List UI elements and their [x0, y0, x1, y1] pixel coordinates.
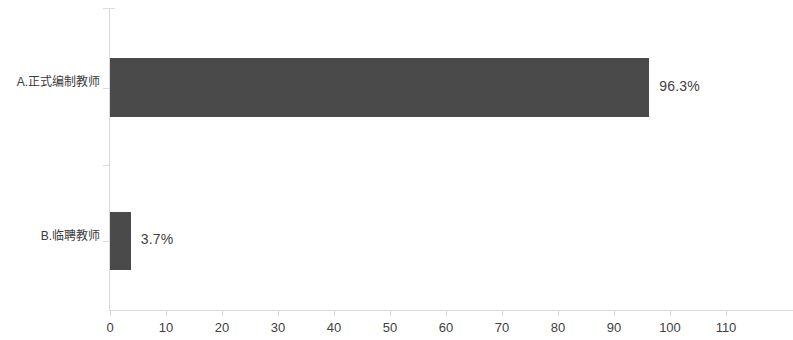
x-axis-tick	[166, 311, 167, 316]
x-axis-label: 20	[202, 320, 242, 335]
x-axis-label: 50	[370, 320, 410, 335]
x-axis-label: 30	[258, 320, 298, 335]
x-axis-label: 60	[426, 320, 466, 335]
x-axis-label: 40	[314, 320, 354, 335]
x-axis-label: 70	[482, 320, 522, 335]
bar-value-label: 96.3%	[659, 78, 700, 94]
bar-chart: A.正式编制教师 B.临聘教师 96.3% 3.7% 0 10 20 30 40…	[0, 0, 793, 340]
x-axis-tick	[334, 311, 335, 316]
x-axis-label: 110	[706, 320, 746, 335]
x-axis-tick	[390, 311, 391, 316]
bar-series-item	[110, 212, 131, 270]
x-axis-label: 10	[146, 320, 186, 335]
x-axis-tick	[502, 311, 503, 316]
x-axis-tick	[614, 311, 615, 316]
x-axis-label: 0	[90, 320, 130, 335]
y-axis-tick	[103, 241, 109, 242]
bar-value-label: 3.7%	[141, 231, 174, 247]
category-label: A.正式编制教师	[0, 72, 100, 89]
y-axis-tick	[103, 88, 109, 89]
bar-series-item	[110, 58, 649, 117]
x-axis-tick	[278, 311, 279, 316]
x-axis-tick	[558, 311, 559, 316]
x-axis-tick	[670, 311, 671, 316]
plot-area	[110, 8, 726, 310]
x-axis-label: 90	[594, 320, 634, 335]
x-axis-label: 80	[538, 320, 578, 335]
category-label: B.临聘教师	[0, 226, 100, 243]
x-axis-tick	[222, 311, 223, 316]
x-axis-tick	[110, 311, 111, 316]
x-axis-tick	[446, 311, 447, 316]
x-axis-line	[109, 310, 793, 311]
x-axis-tick	[726, 311, 727, 316]
y-axis-tick	[103, 165, 109, 166]
x-axis-label: 100	[650, 320, 690, 335]
